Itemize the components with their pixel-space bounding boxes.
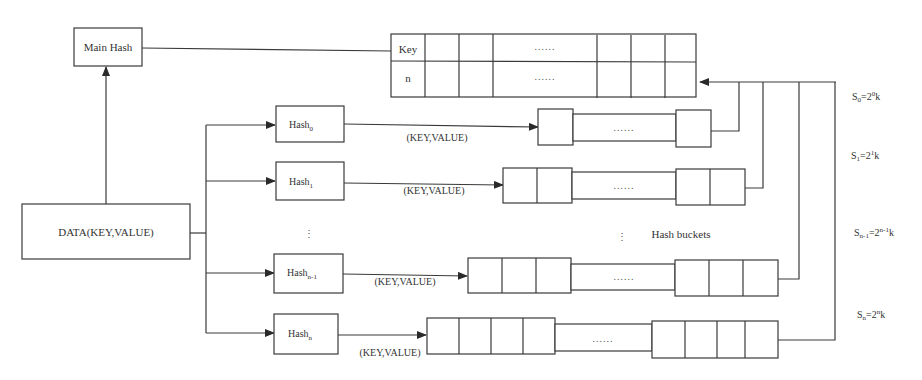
table-row-label-n: n: [405, 72, 411, 84]
hash-0-node: Hash0: [276, 106, 344, 142]
bucket-0-ellipsis: ......: [614, 122, 635, 133]
hash-1-node: Hash1: [276, 162, 344, 200]
hash-structure-diagram: Main Hash Key n ...... ...... DATA(KEY,V…: [0, 0, 922, 380]
main-hash-to-table-edge: [142, 48, 391, 51]
feedback-line-bucket-1: [745, 82, 763, 188]
size-label-1: S1=21k: [851, 149, 879, 163]
main-hash-node: Main Hash: [74, 28, 142, 66]
size-label-n-1: Sn-1=2n-1k: [854, 226, 894, 240]
bucket-n-1-ellipsis: ......: [614, 271, 635, 282]
hash-buckets-label: Hash buckets: [652, 228, 711, 240]
bucket-n: ......: [427, 318, 778, 358]
bucket-feedback-connectors: [700, 82, 836, 340]
hash-n-1-node: Hashn-1: [274, 254, 343, 293]
bucket-1-ellipsis: ......: [614, 180, 635, 191]
hash-n-node: Hashn: [274, 314, 338, 354]
hash-n-1-sub: n-1: [308, 273, 318, 281]
feedback-line-bucket-0: [711, 82, 739, 131]
data-node: DATA(KEY,VALUE): [22, 204, 190, 259]
hash-vertical-ellipsis: ⋮: [304, 228, 315, 239]
hash-n-1-base: Hash: [287, 267, 308, 278]
bucket-0: ......: [538, 109, 711, 147]
hash-0-to-bucket-edge: [344, 124, 538, 127]
table-ellipsis-top: ......: [535, 41, 556, 52]
bucket-1: ......: [503, 168, 745, 205]
hash-0-edge-label: (KEY,VALUE): [406, 132, 467, 144]
main-hash-label: Main Hash: [84, 41, 133, 53]
bucket-n-ellipsis: ......: [593, 333, 614, 344]
main-hash-table: Key n ...... ......: [391, 34, 696, 98]
bucket-vertical-ellipsis: ⋮: [617, 231, 628, 242]
size-label-0: S0=20k: [852, 90, 880, 104]
data-node-label: DATA(KEY,VALUE): [58, 226, 154, 239]
feedback-line-bucket-n-1: [778, 82, 799, 279]
hash-n-1-edge-label: (KEY,VALUE): [374, 276, 435, 288]
feedback-line-bucket-n: [778, 82, 835, 340]
hash-n-base: Hash: [288, 328, 309, 339]
hash-0-sub: 0: [310, 125, 314, 133]
hash-1-edge-label: (KEY,VALUE): [403, 185, 464, 197]
hash-1-base: Hash: [289, 176, 310, 187]
hash-0-base: Hash: [289, 119, 310, 130]
hash-n-sub: n: [309, 334, 313, 342]
size-label-n: Sn=2nk: [857, 308, 885, 322]
hash-1-sub: 1: [310, 182, 314, 190]
table-ellipsis-bottom: ......: [535, 71, 556, 82]
table-row-label-key: Key: [399, 43, 418, 55]
hash-n-edge-label: (KEY,VALUE): [359, 347, 420, 359]
bucket-n-1: ......: [468, 258, 778, 296]
